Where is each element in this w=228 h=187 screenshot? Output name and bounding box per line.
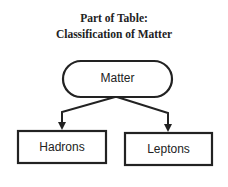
arrowhead-icon — [58, 122, 66, 130]
arrowhead-icon — [164, 124, 172, 132]
edge-matter-leptons — [117, 97, 168, 126]
diagram-canvas — [0, 0, 228, 187]
matter-node-label: Matter — [63, 71, 172, 85]
leptons-node-label: Leptons — [125, 142, 212, 156]
edge-matter-hadrons — [62, 97, 115, 124]
hadrons-node-label: Hadrons — [18, 140, 106, 154]
